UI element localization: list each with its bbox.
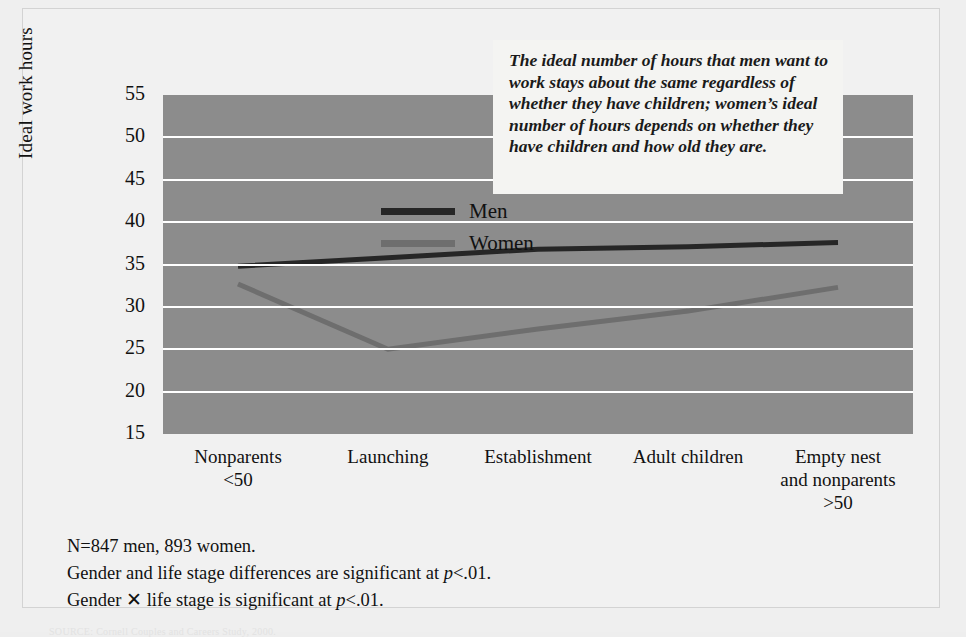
note-line-2: Gender and life stage differences are si… xyxy=(67,560,767,587)
x-tick-label-line: Establishment xyxy=(463,445,613,468)
x-tick-label-line: <50 xyxy=(163,468,313,491)
legend-swatch-women xyxy=(381,240,455,247)
x-tick-label-line: Adult children xyxy=(613,445,763,468)
x-tick-label-0: Nonparents<50 xyxy=(163,445,313,491)
note-line-3-text: Gender xyxy=(67,590,126,610)
y-tick-label-30: 30 xyxy=(99,294,145,317)
note-line-1: N=847 men, 893 women. xyxy=(67,533,767,560)
legend-label-women: Women xyxy=(469,231,534,256)
legend-item-women: Women xyxy=(381,227,534,259)
note-line-2-p: p xyxy=(444,563,453,583)
figure-notes: N=847 men, 893 women. Gender and life st… xyxy=(67,533,767,614)
legend-item-men: Men xyxy=(381,195,534,227)
note-line-2-text: Gender and life stage differences are si… xyxy=(67,563,444,583)
x-tick-label-line: and nonparents xyxy=(763,468,913,491)
figure-frame: Ideal work hours 152025303540455055 MenW… xyxy=(22,8,940,608)
note-line-3: Gender ✕ life stage is significant at p<… xyxy=(67,587,767,614)
y-tick-label-50: 50 xyxy=(99,124,145,147)
note-line-2-tail: <.01. xyxy=(453,563,491,583)
note-line-3-mid: life stage is significant at xyxy=(142,590,336,610)
multiply-icon: ✕ xyxy=(126,590,142,610)
y-tick-label-35: 35 xyxy=(99,252,145,275)
y-axis-title: Ideal work hours xyxy=(15,0,37,159)
y-tick-label-15: 15 xyxy=(99,421,145,444)
y-tick-label-45: 45 xyxy=(99,167,145,190)
callout-annotation: The ideal number of hours that men want … xyxy=(493,40,843,194)
gridline-20 xyxy=(163,391,913,393)
gridline-25 xyxy=(163,348,913,350)
legend-swatch-men xyxy=(381,208,455,215)
gridline-30 xyxy=(163,306,913,308)
y-tick-label-40: 40 xyxy=(99,209,145,232)
gridline-40 xyxy=(163,221,913,223)
y-tick-label-55: 55 xyxy=(99,82,145,105)
note-line-3-p: p xyxy=(336,590,345,610)
y-tick-label-25: 25 xyxy=(99,336,145,359)
x-tick-label-2: Establishment xyxy=(463,445,613,468)
note-line-3-tail: <.01. xyxy=(346,590,384,610)
chart-legend: MenWomen xyxy=(381,195,534,259)
y-tick-label-20: 20 xyxy=(99,379,145,402)
source-caption: SOURCE: Cornell Couples and Careers Stud… xyxy=(49,626,276,637)
x-tick-label-3: Adult children xyxy=(613,445,763,468)
series-line-women xyxy=(238,284,838,349)
x-tick-label-4: Empty nestand nonparents>50 xyxy=(763,445,913,514)
x-tick-label-line: >50 xyxy=(763,491,913,514)
legend-label-men: Men xyxy=(469,199,508,224)
x-tick-label-line: Launching xyxy=(313,445,463,468)
x-tick-label-line: Nonparents xyxy=(163,445,313,468)
x-tick-label-1: Launching xyxy=(313,445,463,468)
gridline-35 xyxy=(163,264,913,266)
x-tick-label-line: Empty nest xyxy=(763,445,913,468)
